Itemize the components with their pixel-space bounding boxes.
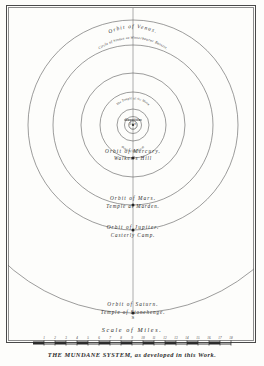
scale-tick-label: 9 [131, 336, 133, 340]
scale-tick-label: 5 [87, 336, 89, 340]
site-label-mercury: Walker's Hill [114, 155, 152, 161]
orbit-label-jupiter: Orbit of Jupiter. [107, 224, 160, 230]
center-mark-label: S [132, 315, 135, 320]
scale-tick-label: 17 [218, 336, 221, 340]
scale-tick-label: 15 [196, 336, 199, 340]
site-label-jupiter: Casterly Camp. [111, 232, 156, 238]
scale-tick-label: 1 [43, 336, 45, 340]
scale-tick-label: 2 [54, 336, 56, 340]
site-label-mars: Temple at Marden. [106, 203, 160, 209]
orbit-label-mars: Orbit of Mars. [110, 195, 156, 201]
scale-tick-label: 6 [98, 336, 100, 340]
scale-tick-label: 3 [65, 336, 67, 340]
scale-tick-labels: 123456789101112131415161718 [33, 336, 231, 342]
orbit-label-saturn: Orbit of Saturn. [107, 301, 158, 307]
center-label-sun: Sun [130, 122, 137, 126]
scale-tick-label: 4 [76, 336, 78, 340]
orbit-label-mercury: Orbit of Mercury. [105, 148, 161, 154]
scale-tick-label: 11 [152, 336, 155, 340]
engraved-plate: Orbit of Venus. Circle of Stones at Wint… [0, 0, 264, 366]
scale-tick-label: 10 [141, 336, 144, 340]
scale-tick-label: 16 [207, 336, 210, 340]
plate-caption: THE MUNDANE SYSTEM, as developed in this… [48, 351, 217, 358]
scale-tick-label: 12 [163, 336, 166, 340]
scale-tick-label: 14 [185, 336, 188, 340]
scale-tick-label: 18 [229, 336, 232, 340]
scale-tick-label: 8 [120, 336, 122, 340]
scale-tick-label: 13 [174, 336, 177, 340]
scale-tick-label: 7 [109, 336, 111, 340]
scale-title: Scale of Miles. [102, 326, 163, 333]
